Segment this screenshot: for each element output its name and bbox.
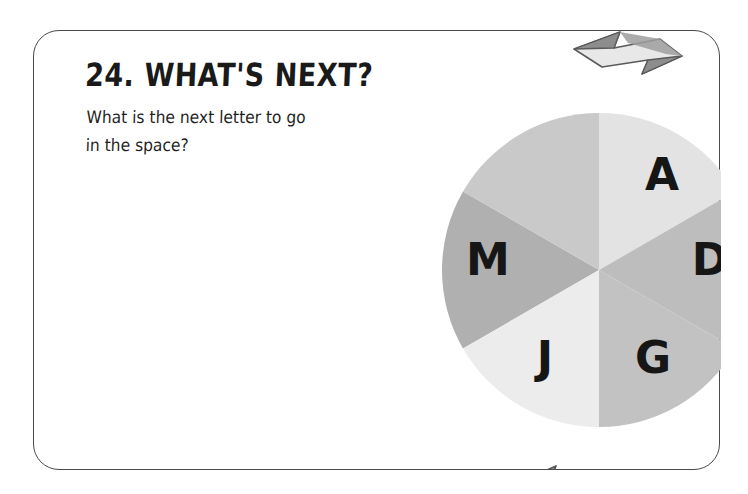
wheel-letter-a: A — [645, 149, 679, 200]
wheel-letter-g: G — [635, 332, 671, 383]
letter-wheel-area: ADGJM — [286, 31, 721, 469]
arrow-body — [516, 466, 624, 469]
puzzle-card: 24. WHAT'S NEXT? What is the next letter… — [33, 30, 720, 470]
rotation-arrow-bottom-left — [516, 466, 624, 469]
letter-wheel-svg: ADGJM — [286, 31, 721, 469]
wheel-letter-m: M — [466, 234, 510, 285]
rotation-arrow-top-right — [574, 32, 682, 74]
arrow-head-right — [516, 466, 556, 469]
wheel-letter-j: J — [534, 332, 553, 383]
arrow-head-left — [574, 32, 620, 49]
wheel-letter-d: D — [692, 234, 721, 285]
